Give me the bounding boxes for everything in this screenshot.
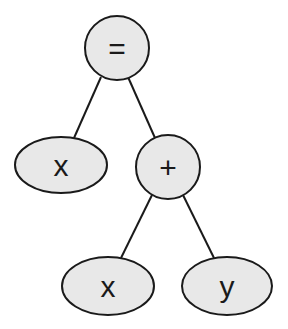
- node-equals-label: =: [108, 32, 126, 65]
- node-bottom-y: y: [182, 257, 272, 315]
- node-equals: =: [85, 16, 149, 80]
- node-bottom-x: x: [62, 257, 154, 315]
- node-left-x-label: x: [54, 149, 69, 182]
- node-plus-label: +: [159, 151, 177, 184]
- node-bottom-x-label: x: [101, 270, 116, 303]
- expression-tree-diagram: = x + x y: [0, 0, 288, 329]
- nodes: = x + x y: [15, 16, 272, 315]
- edge-equals-to-plus: [128, 77, 155, 138]
- node-bottom-y-label: y: [220, 270, 235, 303]
- edge-equals-to-x: [74, 77, 101, 138]
- edge-plus-to-x: [121, 195, 152, 258]
- edge-plus-to-y: [183, 195, 214, 258]
- node-plus: +: [136, 135, 200, 199]
- node-left-x: x: [15, 137, 107, 193]
